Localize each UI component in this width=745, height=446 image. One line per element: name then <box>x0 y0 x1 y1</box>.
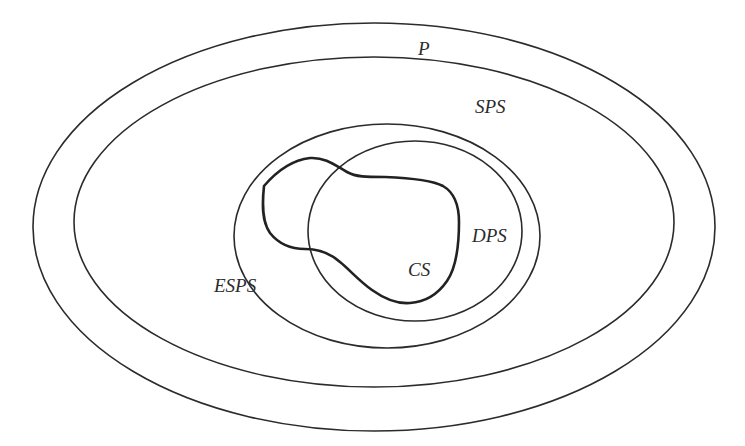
label-esps: ESPS <box>213 275 257 296</box>
set-p-boundary <box>33 23 715 431</box>
label-p: P <box>417 38 430 59</box>
set-sps-boundary <box>74 57 674 387</box>
set-cs-boundary <box>263 158 459 303</box>
set-diagram: P SPS ESPS DPS CS <box>0 0 745 446</box>
label-cs: CS <box>408 259 431 280</box>
label-sps: SPS <box>475 96 506 117</box>
label-dps: DPS <box>471 225 507 246</box>
